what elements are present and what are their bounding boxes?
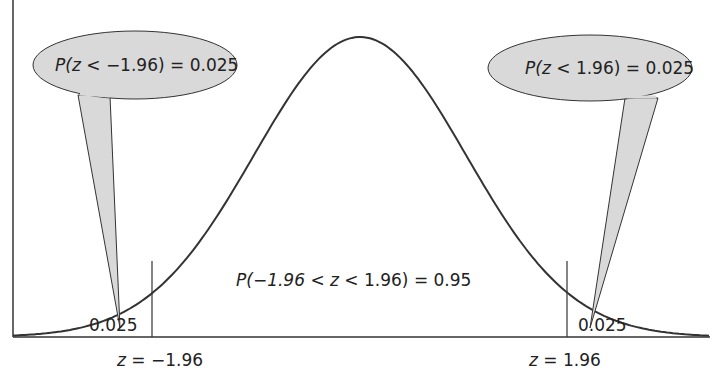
left-callout-label: P(z < −1.96) = 0.025 — [55, 57, 238, 74]
right-callout — [488, 35, 692, 328]
left-callout — [33, 31, 237, 328]
left-z-label: z = −1.96 — [117, 352, 203, 369]
right-z-label: z = 1.96 — [529, 352, 601, 369]
right-tail-area: 0.025 — [578, 317, 627, 334]
right-callout-label: P(z < 1.96) = 0.025 — [525, 60, 694, 77]
left-tail-area: 0.025 — [89, 317, 138, 334]
center-probability-label: P(−1.96 < z < 1.96) = 0.95 — [236, 272, 471, 289]
